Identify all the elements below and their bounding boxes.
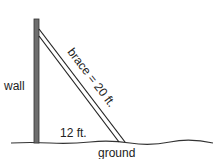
ground-line — [11, 140, 213, 144]
wall-brace-diagram: wall brace = 20 ft. 12 ft. ground — [0, 0, 215, 159]
wall-label: wall — [3, 79, 25, 93]
base-length-label: 12 ft. — [60, 126, 87, 140]
wall — [34, 19, 39, 143]
ground-label: ground — [98, 146, 135, 159]
brace-label: brace = 20 ft. — [65, 45, 119, 109]
